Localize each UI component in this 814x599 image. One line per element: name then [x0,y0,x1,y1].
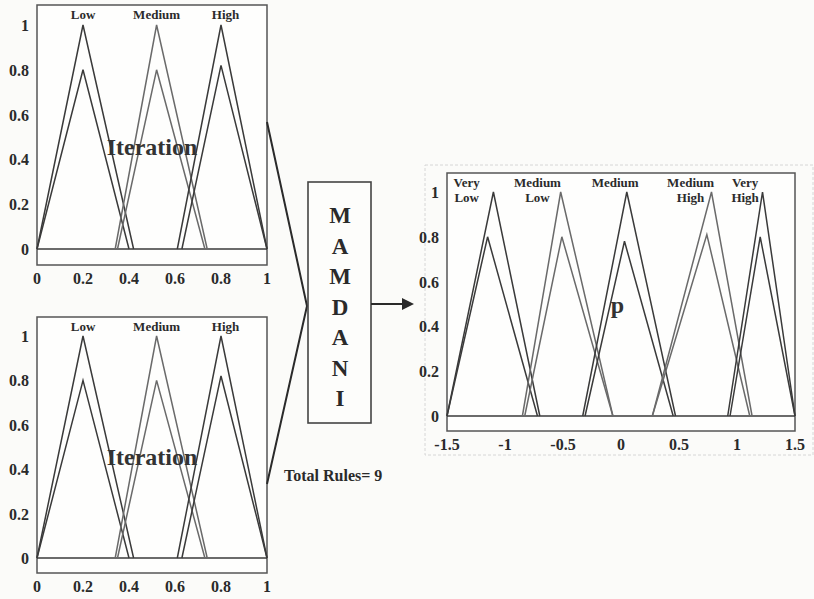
x-tick-label: 0 [33,578,41,595]
x-tick-label: 1 [733,436,741,453]
mamdani-letter: D [332,295,349,320]
mf-label: Very [732,175,759,190]
mamdani-diagram: LowMediumHigh00.20.40.60.8100.20.40.60.8… [0,0,814,599]
output-arrow [371,298,414,310]
x-tick-label: 0.2 [73,270,93,287]
y-tick-label: 0.6 [419,274,439,291]
mf-label: Medium [133,7,180,22]
x-tick-label: 1 [263,270,271,287]
mf-label: High [212,7,240,22]
y-tick-label: 0 [21,550,29,567]
x-tick-label: 0 [617,436,625,453]
x-tick-label: 0 [33,270,41,287]
y-tick-label: 0.8 [419,229,439,246]
mamdani-letter: I [336,386,345,411]
variable-name-label: Iteration [107,134,198,160]
mamdani-inference-engine: MAMDANI [308,182,371,423]
y-tick-label: 0.4 [9,461,29,478]
y-tick-label: 0.2 [9,506,29,523]
y-tick-label: 0.6 [9,107,29,124]
mf-label: Low [71,7,96,22]
mf-label: Medium [133,319,180,334]
input-connector-lines [267,122,307,484]
x-tick-label: 1 [263,578,271,595]
y-tick-label: 1 [21,328,29,345]
x-tick-label: 0.8 [211,578,231,595]
mf-label: High [212,319,240,334]
mamdani-letter: M [329,203,351,228]
x-tick-label: 0.2 [73,578,93,595]
mamdani-letter: A [332,325,349,350]
x-tick-label: 0.4 [119,270,139,287]
input-plot-iteration-2: LowMediumHigh00.20.40.60.8100.20.40.60.8… [9,317,271,595]
x-tick-label: 0.6 [165,270,185,287]
y-tick-label: 0.2 [419,363,439,380]
y-tick-label: 0.2 [9,196,29,213]
total-rules-label: Total Rules= 9 [284,467,382,484]
x-tick-label: -1 [498,436,511,453]
mf-label: High [731,190,759,205]
y-tick-label: 0.4 [9,151,29,168]
input-plot-iteration-1: LowMediumHigh00.20.40.60.8100.20.40.60.8… [9,5,271,287]
x-tick-label: 0.8 [211,270,231,287]
y-tick-label: 0.4 [419,318,439,335]
variable-name-label: p [611,292,624,318]
y-tick-label: 0.6 [9,417,29,434]
mf-label: Medium [514,175,561,190]
x-tick-label: -1.5 [434,436,459,453]
mf-label: Very [454,175,481,190]
mf-label: Low [454,190,479,205]
mf-label: Medium [592,175,639,190]
y-tick-label: 0 [431,408,439,425]
mf-label: Medium [667,175,714,190]
x-tick-label: 0.6 [165,578,185,595]
output-plot-p: VeryLowMediumLowMediumMediumHighVeryHigh… [419,173,805,453]
mamdani-letter: N [332,356,349,381]
variable-name-label: Iteration [107,444,198,470]
y-tick-label: 0 [21,241,29,258]
y-tick-label: 0.8 [9,372,29,389]
mf-label: Low [71,319,96,334]
mf-label: Low [525,190,550,205]
mamdani-letter: M [329,264,351,289]
x-tick-label: 1.5 [785,436,805,453]
y-tick-label: 1 [431,184,439,201]
y-tick-label: 0.8 [9,62,29,79]
mf-label: High [677,190,705,205]
x-tick-label: 0.4 [119,578,139,595]
arrow-head-icon [402,298,414,310]
x-tick-label: -0.5 [550,436,575,453]
mamdani-letter: A [332,234,349,259]
y-tick-label: 1 [21,17,29,34]
x-tick-label: 0.5 [669,436,689,453]
